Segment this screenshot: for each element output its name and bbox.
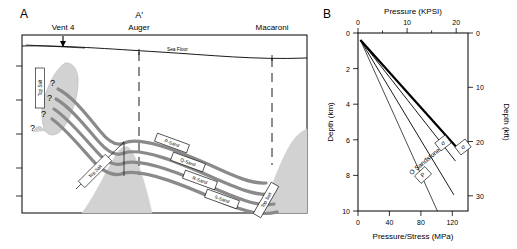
left-tick-2: 2: [346, 66, 350, 73]
right-axis-title: Depth (kft): [502, 103, 511, 141]
bottom-tick-40: 40: [386, 219, 394, 226]
bottom-tick-0: 0: [356, 219, 360, 226]
panel-a-letter: A: [20, 7, 28, 21]
plot-frame: [358, 33, 468, 211]
well-label-vent4: Vent 4: [52, 23, 75, 32]
question-mark-3: ?: [41, 109, 46, 119]
sea-floor-label: Sea Floor: [167, 47, 188, 52]
salt-label-left-group: Top Salt: [36, 68, 45, 108]
top-tick-0: 0: [356, 19, 360, 26]
question-mark-1: ?: [50, 78, 55, 88]
question-mark-4: ?: [30, 123, 35, 133]
top-axis-title: Pressure (KPSI): [384, 7, 442, 16]
right-tick-20: 20: [476, 139, 484, 146]
panel-a-cross-section: A A' Vent 4 Auger Macaroni Sea Floor: [0, 0, 320, 249]
left-axis-ticks: [353, 33, 358, 211]
left-tick-10: 10: [342, 208, 350, 215]
top-axis-ticks: [358, 28, 456, 33]
salt-label-left: Top Salt: [38, 79, 43, 96]
panel-b-letter: B: [323, 7, 331, 21]
left-tick-4: 4: [346, 101, 350, 108]
section-end-label: A': [135, 10, 143, 20]
top-tick-20: 20: [452, 19, 460, 26]
cross-section-drawing: Sea Floor ? ? ? ?: [0, 0, 320, 249]
bottom-axis-title: Pressure/Stress (MPa): [373, 232, 454, 241]
left-axis-ticks: [16, 66, 22, 196]
bottom-axis-ticks: [358, 211, 452, 216]
right-axis-ticks: [468, 33, 473, 196]
left-tick-6: 6: [346, 137, 350, 144]
well-label-auger: Auger: [128, 23, 149, 32]
question-mark-2: ?: [47, 93, 52, 103]
right-tick-0: 0: [476, 30, 480, 37]
left-tick-0: 0: [346, 30, 350, 37]
pressure-depth-chart: Pressure (KPSI) 0 10 20 0 40 80 120 Pres…: [320, 0, 517, 249]
right-tick-30: 30: [476, 193, 484, 200]
left-tick-8: 8: [346, 172, 350, 179]
well-label-macaroni: Macaroni: [256, 23, 289, 32]
bottom-tick-80: 80: [417, 219, 425, 226]
right-tick-10: 10: [476, 84, 484, 91]
left-axis-title: Depth (km): [326, 102, 335, 142]
bottom-tick-120: 120: [446, 219, 458, 226]
panel-b-pressure-depth-plot: B Pressure (KPSI) 0 10 20 0 40 80 120 Pr…: [320, 0, 517, 249]
top-tick-10: 10: [403, 19, 411, 26]
